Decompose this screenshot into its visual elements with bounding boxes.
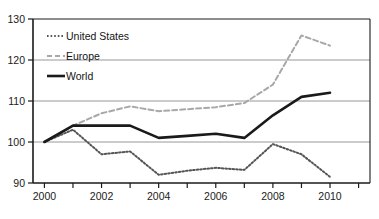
legend-label-united-states: United States <box>66 30 129 42</box>
y-tick-label-100: 100 <box>7 136 25 148</box>
y-tick-label-110: 110 <box>8 95 25 107</box>
x-tick-label-2008: 2008 <box>261 190 285 202</box>
y-tick-label-130: 130 <box>7 13 25 25</box>
y-tick-label-90: 90 <box>13 177 25 189</box>
x-tick-label-2006: 2006 <box>204 190 228 202</box>
x-tick-label-2010: 2010 <box>318 190 342 202</box>
x-tick-label-2002: 2002 <box>90 190 114 202</box>
series-line-world <box>44 93 330 142</box>
line-chart: 90100110120130200020022004200620082010Un… <box>0 0 379 219</box>
y-tick-label-120: 120 <box>7 54 25 66</box>
chart-plot-area: 90100110120130200020022004200620082010Un… <box>0 0 379 219</box>
x-tick-label-2000: 2000 <box>33 190 57 202</box>
legend-label-europe: Europe <box>66 50 100 62</box>
x-tick-label-2004: 2004 <box>147 190 171 202</box>
legend-label-world: World <box>66 70 93 82</box>
